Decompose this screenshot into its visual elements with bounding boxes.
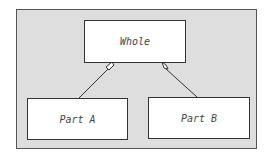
whole-class-box[interactable]: Whole xyxy=(84,20,186,63)
aggregation-diamond-icon xyxy=(162,62,168,69)
part-b-label: Part B xyxy=(181,113,217,124)
part-b-class-box[interactable]: Part B xyxy=(148,97,250,139)
part-a-label: Part A xyxy=(59,114,95,125)
whole-label: Whole xyxy=(120,36,150,47)
aggregation-diamond-icon xyxy=(106,62,114,70)
part-a-class-box[interactable]: Part A xyxy=(27,98,128,140)
